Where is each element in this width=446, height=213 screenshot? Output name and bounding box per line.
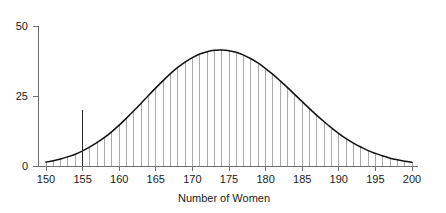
x-tick-label: 165	[147, 173, 165, 185]
histogram-bars	[46, 50, 412, 166]
x-axis-title: Number of Women	[178, 192, 270, 204]
x-tick-label: 155	[73, 173, 91, 185]
x-tick-label: 185	[293, 173, 311, 185]
y-tick-label: 25	[16, 90, 28, 102]
distribution-chart: 150155160165170175180185190195200 02550 …	[0, 0, 446, 213]
y-tick-label: 50	[16, 20, 28, 32]
x-tick-label: 180	[256, 173, 274, 185]
y-tick-label: 0	[22, 160, 28, 172]
chart-axes	[33, 26, 418, 171]
y-axis-tick-labels: 02550	[16, 20, 28, 172]
x-tick-label: 175	[220, 173, 238, 185]
x-axis-tick-labels: 150155160165170175180185190195200	[37, 173, 421, 185]
chart-container: 150155160165170175180185190195200 02550 …	[0, 0, 446, 213]
x-tick-label: 160	[110, 173, 128, 185]
x-tick-label: 190	[330, 173, 348, 185]
x-tick-label: 170	[183, 173, 201, 185]
x-tick-label: 195	[366, 173, 384, 185]
x-tick-label: 200	[403, 173, 421, 185]
x-tick-label: 150	[37, 173, 55, 185]
